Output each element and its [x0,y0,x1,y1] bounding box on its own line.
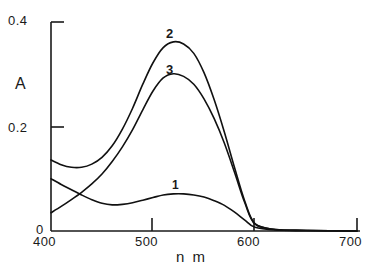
x-axis-tick-label-700: 700 [339,234,362,249]
y-axis-tick-label-0.2: 0.2 [8,120,27,135]
curve-series-3 [51,74,357,231]
series-label-2: 2 [166,26,173,41]
x-axis-tick-label-500: 500 [135,234,158,249]
curve-series-2 [51,42,357,231]
x-axis-tick-label-400: 400 [33,234,56,249]
x-axis-title: n m [176,248,207,265]
y-axis-title: A [15,75,26,93]
y-tick-marks [51,22,64,127]
series-label-1: 1 [172,178,179,192]
curve-series-1 [51,179,357,231]
series-label-3: 3 [166,62,173,77]
y-axis-tick-label-0.4: 0.4 [8,13,27,28]
absorption-spectrum-figure: 0.4 0.2 0 400 500 600 700 A n m 2 3 1 [0,0,380,274]
x-axis-tick-label-600: 600 [237,234,260,249]
axes-group [51,22,360,231]
spectrum-plot-canvas [0,0,380,274]
data-curves [51,42,357,231]
